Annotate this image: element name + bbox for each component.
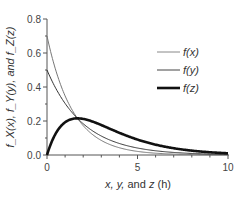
chart: 0.00.20.40.60.8 0510 f(x) f(y) f(z) x, y… [0, 0, 246, 203]
y-tick-label: 0.2 [27, 116, 41, 127]
series-fy-line [47, 70, 228, 154]
x-tick-label: 0 [44, 162, 50, 173]
legend-label-fy: f(y) [183, 64, 199, 76]
legend: f(x) f(y) f(z) [157, 46, 199, 94]
series-fx-line [47, 36, 228, 155]
x-tick-label: 10 [222, 162, 234, 173]
legend-label-fx: f(x) [183, 46, 199, 58]
x-ticks: 0510 [44, 155, 234, 173]
series-fz-line [47, 118, 228, 155]
y-tick-label: 0.8 [27, 14, 41, 25]
y-tick-label: 0.6 [27, 48, 41, 59]
legend-label-fz: f(z) [183, 82, 199, 94]
y-ticks: 0.00.20.40.60.8 [27, 14, 47, 161]
y-tick-label: 0.0 [27, 150, 41, 161]
x-axis-label: x, y, and z (h) [104, 178, 171, 190]
y-tick-label: 0.4 [27, 82, 41, 93]
x-tick-label: 5 [135, 162, 141, 173]
y-axis-label: f_X(x), f_Y(y), and f_Z(z) [4, 26, 16, 147]
